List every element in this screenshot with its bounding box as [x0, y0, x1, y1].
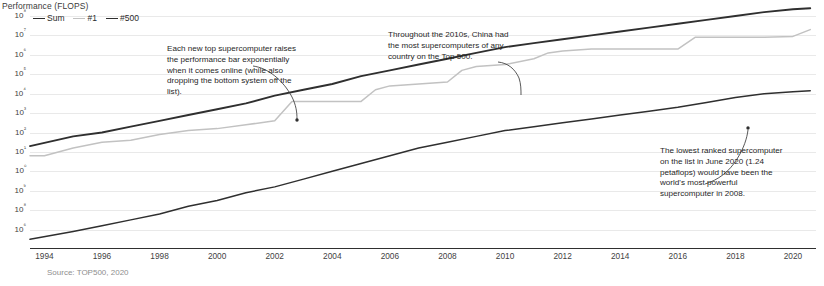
legend-item-label: #500	[120, 14, 139, 23]
legend-item-label: #1	[87, 14, 96, 23]
leader-dot-2	[746, 126, 749, 129]
legend-item-sum[interactable]: Sum	[33, 14, 64, 23]
leader-line-1	[498, 62, 521, 95]
legend-item-label: Sum	[47, 14, 64, 23]
legend-item-n1[interactable]: #1	[73, 14, 96, 23]
legend-swatch-icon	[106, 18, 118, 19]
annotation-text-0: Each new top supercomputer raises the pe…	[167, 44, 297, 98]
leader-dot-0	[295, 118, 298, 121]
chart-legend: Sum#1#500	[33, 14, 139, 23]
legend-swatch-icon	[73, 18, 85, 19]
legend-item-n500[interactable]: #500	[106, 14, 139, 23]
legend-swatch-icon	[33, 18, 45, 19]
annotation-text-2: The lowest ranked supercomputer on the l…	[660, 146, 792, 200]
annotation-text-1: Throughout the 2010s, China had the most…	[388, 30, 520, 62]
